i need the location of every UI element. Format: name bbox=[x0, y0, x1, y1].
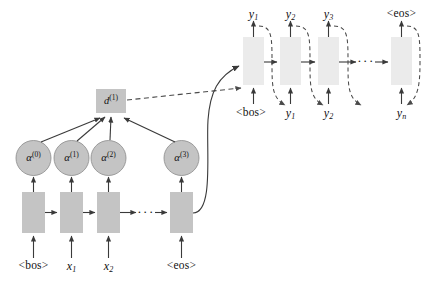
attention-node-label-2: α(2) bbox=[101, 153, 115, 164]
encoder-cell-1 bbox=[60, 192, 83, 233]
encoder-input-label-3: <eos> bbox=[167, 260, 196, 272]
attention-node-sup-1: (1) bbox=[70, 150, 79, 159]
decoder-ellipsis: ··· bbox=[357, 53, 375, 69]
context-vector-sup: (1) bbox=[109, 93, 118, 102]
decoder-input-sub-1: 1 bbox=[291, 112, 295, 121]
alpha-to-context-arrow-2 bbox=[110, 117, 111, 140]
attention-node-sup-2: (2) bbox=[107, 150, 116, 159]
decoder-input-label-3: yn bbox=[397, 107, 406, 119]
attention-node-label-0: α(0) bbox=[26, 153, 40, 164]
attention-node-sup-0: (0) bbox=[32, 150, 41, 159]
encoder-to-attention-arrows bbox=[34, 177, 182, 192]
attention-to-context-arrows bbox=[41, 117, 175, 142]
attention-node-label-1: α(1) bbox=[64, 153, 78, 164]
decoder-output-label-2: y3 bbox=[324, 8, 333, 20]
decoder-output-label-1: y2 bbox=[286, 8, 295, 20]
context-vector-label: d(1) bbox=[104, 96, 118, 107]
encoder-cell-2 bbox=[97, 192, 120, 233]
context-to-decoder-dashed-arrow bbox=[127, 88, 241, 100]
encoder-cell-0 bbox=[22, 192, 45, 233]
decoder-output-label-3: <eos> bbox=[387, 8, 416, 20]
alpha-to-context-arrow-3 bbox=[124, 118, 175, 142]
attention-node-base-3: α bbox=[174, 152, 180, 163]
attention-node-sup-3: (3) bbox=[180, 150, 189, 159]
diagram-canvas bbox=[0, 0, 425, 282]
encoder-input-arrows bbox=[34, 236, 182, 258]
decoder-output-sub-2: 3 bbox=[329, 13, 333, 22]
decoder-input-label-0: <bos> bbox=[236, 107, 266, 119]
decoder-input-label-2: y2 bbox=[324, 107, 333, 119]
attention-node-base-0: α bbox=[26, 152, 32, 163]
alpha-to-context-arrow-0 bbox=[41, 118, 100, 142]
decoder-cell-3 bbox=[391, 37, 412, 85]
decoder-output-label-0: y1 bbox=[249, 8, 258, 20]
attention-node-base-2: α bbox=[101, 152, 107, 163]
encoder-ellipsis: ··· bbox=[137, 204, 155, 220]
alpha-to-context-arrow-1 bbox=[77, 117, 105, 141]
encoder-input-sub-2: 2 bbox=[109, 265, 113, 274]
attention-node-base-1: α bbox=[64, 152, 70, 163]
decoder-output-sub-0: 1 bbox=[254, 13, 258, 22]
decoder-output-arrows bbox=[254, 21, 402, 37]
decoder-cell-2 bbox=[318, 37, 339, 85]
decoder-input-label-1: y1 bbox=[286, 107, 295, 119]
encoder-input-sub-1: 1 bbox=[72, 265, 76, 274]
encoder-input-label-1: x1 bbox=[67, 260, 76, 272]
encoder-cell-3 bbox=[170, 192, 193, 233]
attention-seq2seq-diagram: ··· ··· α(0) α(1) α(2) α(3) d(1) <bos> x… bbox=[0, 0, 425, 282]
encoder-input-label-2: x2 bbox=[104, 260, 113, 272]
decoder-cells bbox=[243, 37, 412, 85]
encoder-input-label-0: <bos> bbox=[19, 260, 49, 272]
decoder-cell-0 bbox=[243, 37, 264, 85]
decoder-output-sub-1: 2 bbox=[291, 13, 295, 22]
decoder-input-sub-3: n bbox=[402, 112, 406, 121]
decoder-input-sub-2: 2 bbox=[329, 112, 333, 121]
decoder-cell-1 bbox=[280, 37, 301, 85]
encoder-state-to-decoder-curve bbox=[193, 66, 239, 213]
attention-node-label-3: α(3) bbox=[174, 153, 188, 164]
